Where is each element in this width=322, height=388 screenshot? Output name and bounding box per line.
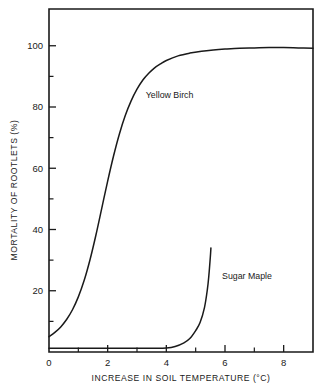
x-tick-label: 0	[46, 357, 51, 368]
x-tick-label: 6	[222, 357, 227, 368]
x-tick-label: 8	[281, 357, 286, 368]
y-axis-title: MORTALITY OF ROOTLETS (%)	[9, 120, 19, 261]
y-tick-label: 20	[32, 285, 43, 296]
y-tick-label: 100	[27, 40, 43, 51]
chart-figure: 02468 20406080100 Yellow BirchSugar Mapl…	[0, 0, 322, 388]
x-tick-label: 4	[164, 357, 169, 368]
y-tick-label: 60	[32, 163, 43, 174]
series-label-sugar-maple: Sugar Maple	[222, 271, 272, 281]
series-label-yellow-birch: Yellow Birch	[146, 90, 194, 100]
y-tick-label: 80	[32, 101, 43, 112]
y-tick-label: 40	[32, 224, 43, 235]
mortality-vs-soil-temperature-chart: 02468 20406080100 Yellow BirchSugar Mapl…	[0, 0, 322, 388]
x-axis-title: INCREASE IN SOIL TEMPERATURE (°C)	[91, 373, 270, 383]
x-tick-label: 2	[105, 357, 110, 368]
